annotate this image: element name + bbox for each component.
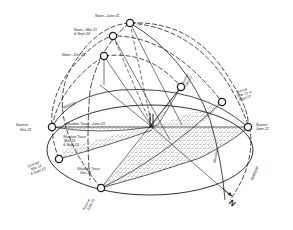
- label-shadow-june: Shadow Trace - June 21: [66, 122, 105, 126]
- label-sunset-june-2: June 21: [255, 127, 269, 131]
- label-horizon-right: Horizon: [249, 165, 260, 181]
- meridian-arc-back: [88, 23, 130, 180]
- label-shadow-mar-3: & Sept 23: [63, 143, 79, 147]
- sunrise-mar-marker: [55, 155, 62, 162]
- label-shadow-dec-2: Dec 21: [80, 171, 91, 175]
- sunset-june-marker: [244, 123, 251, 130]
- label-noon-dec: Noon - Dec 21: [62, 53, 85, 57]
- label-sunrise-dec-1: Sunrise: [16, 123, 28, 127]
- sunrise-dec-marker: [48, 123, 55, 130]
- noon-mar-marker: [109, 32, 116, 39]
- label-noon-june: Noon - June 21: [95, 14, 120, 18]
- noon-dec-marker: [100, 52, 107, 59]
- label-sunrise-dec-2: Dec 21: [20, 128, 31, 132]
- labels: Noon - June 21 Noon - Mar 21 & Sept 23 N…: [16, 14, 269, 213]
- label-noon-mar-2: & Sept 23: [74, 32, 90, 36]
- sunset-mar-marker: [218, 98, 225, 105]
- noon-june-marker: [126, 19, 133, 26]
- sun-path-diagram: N Noon - June 21 Noon - Mar 21 & Sept 23…: [0, 0, 293, 230]
- north-label: N: [227, 198, 237, 209]
- label-horizon-upper: Horizon: [61, 100, 77, 111]
- sunrise-june-marker: [97, 184, 104, 191]
